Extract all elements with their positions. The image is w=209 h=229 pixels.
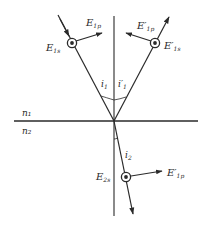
label-incident-s: E1s bbox=[45, 42, 60, 54]
optics-diagram: E1p E1s E′1p E′1s E2s E′1p i1 i′1 i2 n₁ … bbox=[0, 0, 209, 229]
incident-p-vector bbox=[76, 33, 102, 41]
label-medium-n1: n₁ bbox=[22, 108, 31, 118]
label-angle-incidence: i1 bbox=[101, 79, 108, 90]
refracted-p-vector bbox=[131, 171, 162, 176]
label-medium-n2: n₂ bbox=[22, 126, 32, 136]
label-incident-p: E1p bbox=[85, 17, 101, 30]
refracted-ray bbox=[114, 121, 133, 214]
label-angle-reflection: i′1 bbox=[118, 79, 127, 90]
reflected-ray bbox=[114, 17, 169, 121]
refracted-s-symbol-icon bbox=[121, 172, 130, 181]
reflected-s-symbol-icon bbox=[150, 38, 159, 47]
incident-s-symbol-icon bbox=[67, 38, 76, 47]
reflected-p-vector bbox=[126, 33, 151, 41]
label-reflected-p: E′1p bbox=[136, 20, 154, 33]
incident-ray-arrow bbox=[60, 19, 69, 36]
label-reflected-s: E′1s bbox=[163, 40, 180, 52]
label-refracted-s: E2s bbox=[95, 171, 110, 183]
label-refracted-p: E′1p bbox=[166, 167, 184, 180]
label-angle-refraction: i2 bbox=[125, 150, 132, 161]
angle-arc-reflection bbox=[114, 97, 126, 100]
